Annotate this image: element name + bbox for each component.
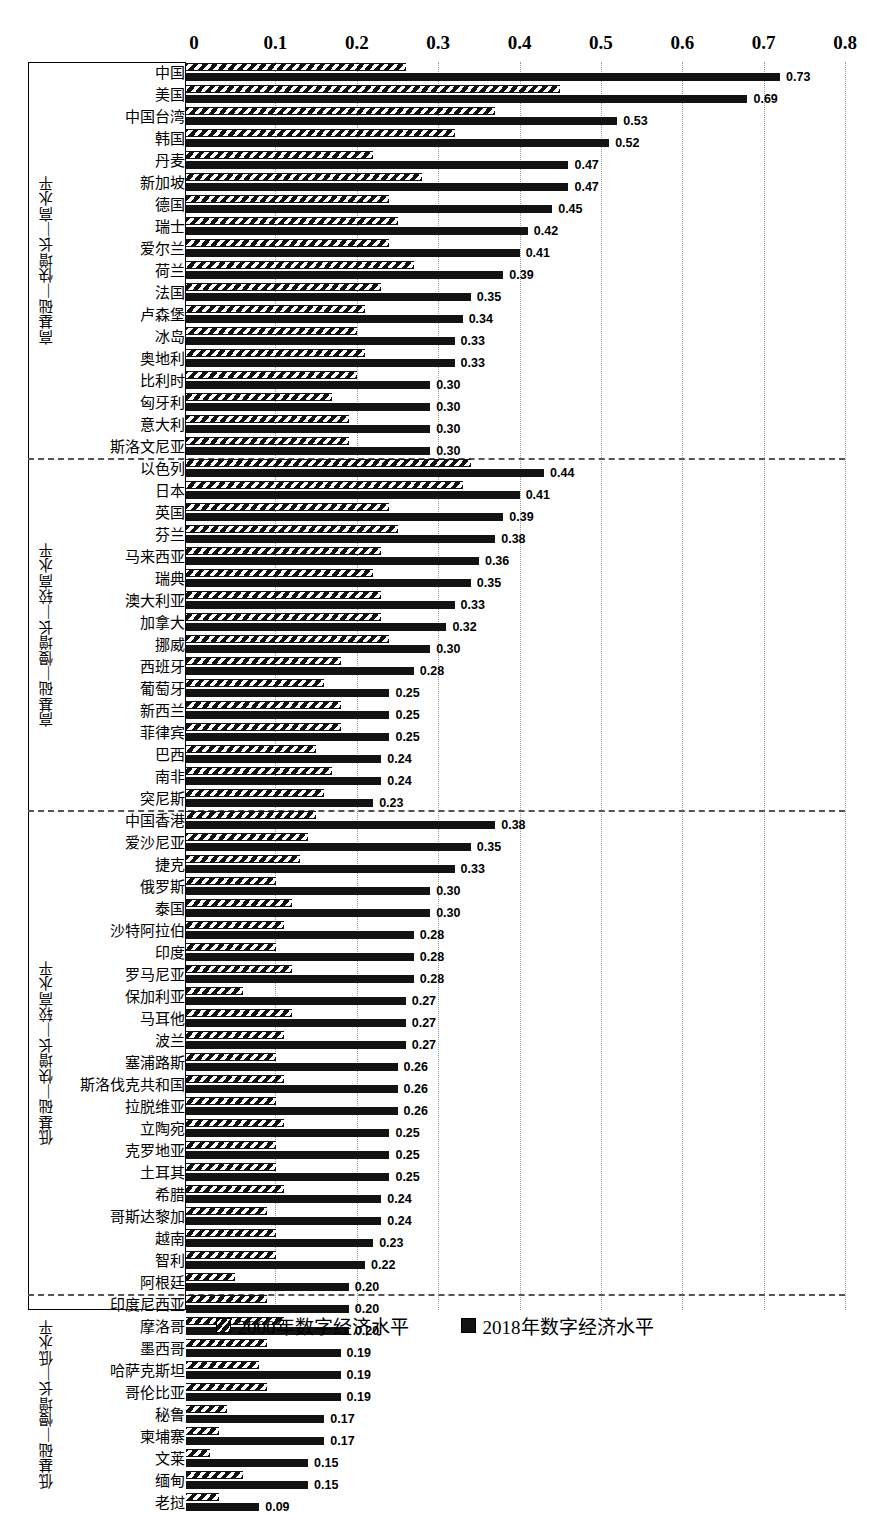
bar-2018 <box>186 711 389 719</box>
bar-2018 <box>186 447 430 455</box>
category-label: 瑞典 <box>155 568 185 590</box>
bar-2000 <box>186 767 332 775</box>
chart-row: 英国0.39 <box>0 502 869 524</box>
bar-value-label: 0.26 <box>404 1083 428 1096</box>
category-label: 马来西亚 <box>125 546 185 568</box>
chart-row: 丹麦0.47 <box>0 150 869 172</box>
chart-row: 比利时0.30 <box>0 370 869 392</box>
bar-value-label: 0.19 <box>347 1391 371 1404</box>
bar-2018 <box>186 183 568 191</box>
bar-value-label: 0.24 <box>387 1215 411 1228</box>
chart-row: 冰岛0.33 <box>0 326 869 348</box>
bar-value-label: 0.28 <box>420 929 444 942</box>
bar-2000 <box>186 1383 267 1391</box>
category-label: 马耳他 <box>140 1008 185 1030</box>
bar-2000 <box>186 899 292 907</box>
bar-value-label: 0.30 <box>436 643 460 656</box>
bar-2018 <box>186 1129 389 1137</box>
bar-2000 <box>186 679 324 687</box>
bar-2000 <box>186 921 284 929</box>
bar-2018 <box>186 601 455 609</box>
category-label: 挪威 <box>155 634 185 656</box>
bar-2000 <box>186 217 398 225</box>
category-label: 希腊 <box>155 1184 185 1206</box>
bar-value-label: 0.35 <box>477 577 501 590</box>
bar-2018 <box>186 1371 341 1379</box>
category-label: 葡萄牙 <box>140 678 185 700</box>
bar-value-label: 0.15 <box>314 1479 338 1492</box>
bar-2018 <box>186 117 617 125</box>
bar-2018 <box>186 469 544 477</box>
bar-value-label: 0.30 <box>436 379 460 392</box>
bar-2018 <box>186 139 609 147</box>
bar-2000 <box>186 811 316 819</box>
bar-value-label: 0.28 <box>420 951 444 964</box>
category-label: 荷兰 <box>155 260 185 282</box>
chart-row: 西班牙0.28 <box>0 656 869 678</box>
chart-row: 智利0.22 <box>0 1250 869 1272</box>
chart-row: 斯洛文尼亚0.30 <box>0 436 869 458</box>
chart-row: 中国台湾0.53 <box>0 106 869 128</box>
x-axis-tick: 0.8 <box>833 30 857 56</box>
bar-value-label: 0.30 <box>436 423 460 436</box>
bar-2000 <box>186 107 495 115</box>
chart-row: 秘鲁0.17 <box>0 1404 869 1426</box>
bar-value-label: 0.34 <box>469 313 493 326</box>
category-label: 爱沙尼亚 <box>125 832 185 854</box>
bar-2018 <box>186 887 430 895</box>
category-label: 缅甸 <box>155 1470 185 1492</box>
category-label: 智利 <box>155 1250 185 1272</box>
bar-value-label: 0.30 <box>436 907 460 920</box>
category-label: 保加利亚 <box>125 986 185 1008</box>
bar-2018 <box>186 975 414 983</box>
category-label: 突尼斯 <box>140 788 185 810</box>
legend-item-2000: 2000年数字经济水平 <box>216 1312 409 1339</box>
bar-2000 <box>186 349 365 357</box>
bar-2018 <box>186 205 552 213</box>
bar-2018 <box>186 667 414 675</box>
chart-row: 捷克0.33 <box>0 854 869 876</box>
chart-row: 突尼斯0.23 <box>0 788 869 810</box>
chart-row: 日本0.41 <box>0 480 869 502</box>
bar-2000 <box>186 1009 292 1017</box>
bar-value-label: 0.33 <box>461 863 485 876</box>
chart-row: 瑞士0.42 <box>0 216 869 238</box>
chart-row: 哥斯达黎加0.24 <box>0 1206 869 1228</box>
category-label: 丹麦 <box>155 150 185 172</box>
bar-value-label: 0.35 <box>477 841 501 854</box>
category-label: 菲律宾 <box>140 722 185 744</box>
bar-2000 <box>186 547 381 555</box>
chart-row: 意大利0.30 <box>0 414 869 436</box>
bar-2000 <box>186 1471 243 1479</box>
category-label: 塞浦路斯 <box>125 1052 185 1074</box>
bar-2018 <box>186 1107 398 1115</box>
bar-value-label: 0.24 <box>387 753 411 766</box>
category-label: 克罗地亚 <box>125 1140 185 1162</box>
chart-row: 缅甸0.15 <box>0 1470 869 1492</box>
chart-row: 荷兰0.39 <box>0 260 869 282</box>
category-label: 中国 <box>155 62 185 84</box>
bar-2018 <box>186 249 520 257</box>
bar-2000 <box>186 1251 276 1259</box>
chart-row: 奥地利0.33 <box>0 348 869 370</box>
bar-2018 <box>186 1239 373 1247</box>
bar-value-label: 0.19 <box>347 1347 371 1360</box>
chart-row: 泰国0.30 <box>0 898 869 920</box>
bar-2018 <box>186 1437 324 1445</box>
x-axis-tick: 0.7 <box>752 30 776 56</box>
bar-value-label: 0.26 <box>404 1061 428 1074</box>
bar-2000 <box>186 1031 284 1039</box>
category-label: 卢森堡 <box>140 304 185 326</box>
bar-2018 <box>186 1195 381 1203</box>
legend-label-2000: 2000年数字经济水平 <box>238 1312 409 1339</box>
category-label: 土耳其 <box>140 1162 185 1184</box>
category-label: 新西兰 <box>140 700 185 722</box>
category-label: 斯洛伐克共和国 <box>80 1074 185 1096</box>
chart-row: 匈牙利0.30 <box>0 392 869 414</box>
bar-2018 <box>186 645 430 653</box>
bar-2018 <box>186 1261 365 1269</box>
bar-2018 <box>186 1393 341 1401</box>
bar-value-label: 0.52 <box>615 137 639 150</box>
chart-row: 巴西0.24 <box>0 744 869 766</box>
bar-2018 <box>186 799 373 807</box>
